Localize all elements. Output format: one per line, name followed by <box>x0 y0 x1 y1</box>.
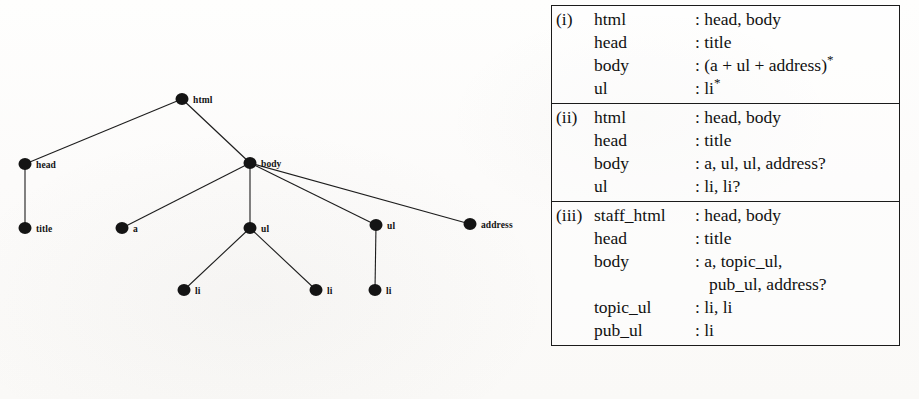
grammar-section-ii: (ii)html: head, bodyhead: titlebody: a, … <box>552 103 899 201</box>
grammar-production-value: : (a + ul + address)* <box>695 54 899 77</box>
grammar-row: (iii)staff_html: head, body <box>552 204 899 227</box>
tree-edge-body-a <box>122 163 250 228</box>
grammar-section-i: (i)html: head, bodyhead: titlebody: (a +… <box>552 6 899 103</box>
grammar-row: ul: li* <box>552 77 899 100</box>
tree-edge-group <box>25 99 470 290</box>
tree-node-label-li3: li <box>386 286 391 296</box>
tree-node-label-ul2: ul <box>387 221 395 231</box>
tree-edge-html-body <box>182 99 250 163</box>
grammar-production-value: pub_ul, address? <box>695 273 899 296</box>
grammar-production-value: : title <box>695 227 899 250</box>
kleene-star: * <box>827 52 834 67</box>
grammar-row: topic_ul: li, li <box>552 296 899 319</box>
grammar-row: ul: li, li? <box>552 175 899 198</box>
tree-node-title <box>19 222 32 234</box>
grammar-row: (i)html: head, body <box>552 8 899 31</box>
grammar-element-name: pub_ul <box>594 319 695 342</box>
grammar-row: body: a, topic_ul, <box>552 250 899 273</box>
grammar-element-name: topic_ul <box>594 296 695 319</box>
grammar-production-value: : head, body <box>695 204 899 227</box>
tree-node-address <box>464 218 477 230</box>
grammar-production-value: : a, ul, ul, address? <box>695 152 899 175</box>
grammar-row: pub_ul, address? <box>552 273 899 296</box>
tree-node-label-a: a <box>133 224 138 234</box>
grammar-element-name: staff_html <box>594 204 695 227</box>
grammar-element-name: head <box>594 227 695 250</box>
kleene-star: * <box>714 75 721 90</box>
grammar-element-name: ul <box>594 77 695 100</box>
tree-edge-body-address <box>250 163 470 224</box>
tree-node-ul1 <box>244 222 257 234</box>
grammar-rule-number: (iii) <box>552 204 594 227</box>
tree-node-label-title: title <box>36 224 52 234</box>
grammar-production-value: : li, li <box>695 296 899 319</box>
grammar-production-value: : title <box>695 129 899 152</box>
tree-edge-ul1-li2 <box>250 228 316 290</box>
grammar-production-value: : head, body <box>695 106 899 129</box>
grammar-production-value: : li* <box>695 77 899 100</box>
tree-node-label-address: address <box>481 220 513 230</box>
tree-node-li3 <box>369 284 382 296</box>
grammar-production-value: : li, li? <box>695 175 899 198</box>
tree-edge-ul1-li1 <box>184 228 250 290</box>
grammar-row: body: (a + ul + address)* <box>552 54 899 77</box>
tree-graphics <box>0 0 545 399</box>
tree-node-group <box>19 93 477 296</box>
tree-node-label-li2: li <box>327 286 332 296</box>
tree-node-head <box>19 158 32 170</box>
grammar-element-name: ul <box>594 175 695 198</box>
grammar-element-name: html <box>594 106 695 129</box>
tree-node-li1 <box>178 284 191 296</box>
grammar-section-iii: (iii)staff_html: head, bodyhead: titlebo… <box>552 201 899 345</box>
dom-tree-diagram: htmlheadbodytitleaululaddresslilili <box>0 0 545 399</box>
grammar-row: (ii)html: head, body <box>552 106 899 129</box>
tree-node-body <box>244 157 257 169</box>
grammar-row: head: title <box>552 129 899 152</box>
grammar-element-name: body <box>594 250 695 273</box>
tree-edge-html-head <box>25 99 182 164</box>
tree-node-label-html: html <box>193 95 212 105</box>
tree-node-label-head: head <box>36 160 56 170</box>
grammar-production-value: : title <box>695 31 899 54</box>
grammar-production-value: : a, topic_ul, <box>695 250 899 273</box>
grammar-element-name: head <box>594 31 695 54</box>
grammar-production-value: : head, body <box>695 8 899 31</box>
tree-node-a <box>116 222 129 234</box>
dtd-grammar-table: (i)html: head, bodyhead: titlebody: (a +… <box>551 5 900 346</box>
tree-edge-body-ul2 <box>250 163 376 225</box>
grammar-row: pub_ul: li <box>552 319 899 342</box>
grammar-production-value: : li <box>695 319 899 342</box>
grammar-row: head: title <box>552 227 899 250</box>
grammar-element-name: head <box>594 129 695 152</box>
tree-node-li2 <box>310 284 323 296</box>
grammar-element-name: html <box>594 8 695 31</box>
grammar-rule-number: (ii) <box>552 106 594 129</box>
tree-node-label-li1: li <box>195 286 200 296</box>
tree-node-label-body: body <box>261 159 281 169</box>
grammar-row: body: a, ul, ul, address? <box>552 152 899 175</box>
grammar-element-name: body <box>594 152 695 175</box>
grammar-rule-number: (i) <box>552 8 594 31</box>
grammar-row: head: title <box>552 31 899 54</box>
tree-node-label-ul1: ul <box>261 224 269 234</box>
grammar-element-name: body <box>594 54 695 77</box>
tree-node-html <box>176 93 189 105</box>
tree-edge-ul2-li3 <box>375 225 376 290</box>
tree-node-ul2 <box>370 219 383 231</box>
